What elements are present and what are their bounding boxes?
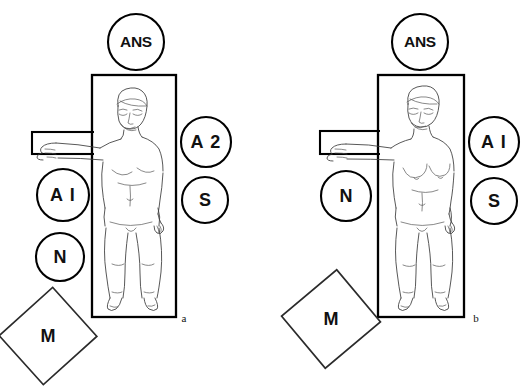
panel-a-patient-table [92, 75, 176, 317]
panel-b-arm-board [320, 131, 380, 154]
panel-b-letter: b [473, 312, 479, 324]
panel-a-letter: a [182, 312, 187, 324]
figure-root: ANS A I N A 2 S M a [0, 0, 531, 386]
panel-b-a1-label: A I [481, 132, 507, 152]
panel-b-s-label: S [488, 191, 500, 211]
panel-b-m-label: M [324, 309, 339, 329]
panel-b-n-label: N [340, 186, 353, 206]
panel-a-s-label: S [199, 190, 211, 210]
panel-a-a2-label: A 2 [191, 132, 222, 152]
panel-a-m-label: M [41, 326, 56, 346]
panel-a-n-label: N [54, 247, 67, 267]
two-panel-diagram: ANS A I N A 2 S M a [0, 0, 531, 386]
panel-b-ans-label: ANS [404, 33, 436, 50]
panel-a: ANS A I N A 2 S M a [0, 14, 231, 385]
panel-b: ANS N A I S M b [282, 14, 519, 368]
panel-a-a1-label: A I [50, 185, 76, 205]
panel-a-ans-label: ANS [120, 33, 152, 50]
